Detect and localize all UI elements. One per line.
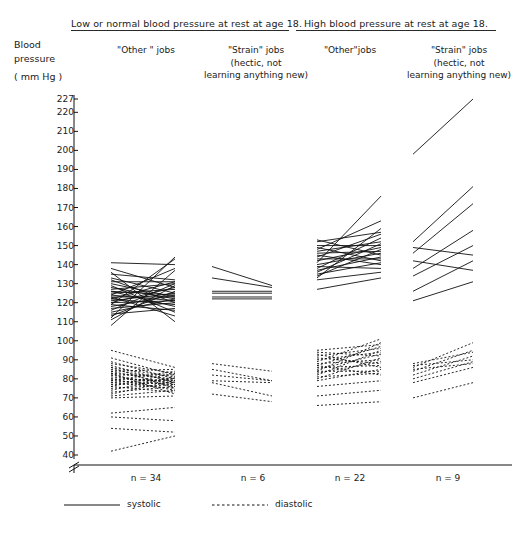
diastolic-line [111,428,175,432]
y-axis-ticks [74,99,78,455]
legend-swatches [60,497,360,513]
diastolic-line [317,390,381,396]
diastolic-line [413,383,473,398]
data-group-2 [212,267,272,402]
diastolic-line [317,352,381,356]
systolic-line [111,268,175,287]
systolic-line [317,278,381,289]
systolic-line [317,232,381,242]
diastolic-line [111,436,175,451]
systolic-line [111,263,175,265]
diastolic-line [317,366,381,376]
diastolic-line [317,373,381,377]
diastolic-line [413,367,473,382]
systolic-line [413,204,473,253]
systolic-line [413,187,473,242]
n-label-group-2: n = 6 [203,473,303,483]
data-group-3 [317,196,381,405]
n-label-group-3: n = 22 [300,473,400,483]
systolic-line [413,230,473,268]
legend-label-systolic: systolic [127,499,161,509]
data-group-4 [413,99,473,398]
systolic-line [111,274,175,280]
chart-root: Low or normal blood pressure at rest at … [0,0,519,537]
n-label-group-1: n = 34 [96,473,196,483]
data-group-1 [111,257,175,451]
n-label-group-4: n = 9 [400,473,496,483]
diastolic-line [212,383,272,396]
diastolic-line [111,417,175,421]
systolic-line [413,247,473,255]
diastolic-line [111,396,175,398]
diastolic-line [212,394,272,402]
diastolic-line [317,381,381,387]
diastolic-line [413,356,473,375]
diastolic-line [413,343,473,368]
systolic-line [413,246,473,276]
diastolic-line [317,402,381,406]
systolic-line [413,99,473,154]
systolic-line [317,272,381,280]
legend-label-diastolic: diastolic [275,499,312,509]
diastolic-line [212,381,272,383]
plot-area [0,0,519,537]
systolic-line [413,282,473,301]
diastolic-line [212,364,272,372]
diastolic-line [212,375,272,381]
diastolic-line [111,407,175,413]
diastolic-line [212,369,272,380]
